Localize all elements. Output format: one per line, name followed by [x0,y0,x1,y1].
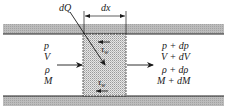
outlet-density: ρ + dρ [161,64,189,75]
inlet-properties: p V ρ M [43,40,53,86]
tau-sub-bottom: w [101,82,105,88]
inlet-mach: M [43,75,53,86]
duct-control-volume-diagram: dx dQ τw τw p V ρ M p + dp V + dV ρ + dρ… [0,0,227,111]
inlet-density: ρ [44,64,50,75]
outlet-mach: M + dM [156,75,191,86]
bottom-wall [3,96,224,106]
outlet-velocity: V + dV [161,51,192,62]
outlet-properties: p + dp V + dV ρ + dρ M + dM [156,40,192,86]
top-wall [3,24,224,34]
inlet-pressure: p [43,40,49,51]
dx-label: dx [101,2,111,13]
inlet-velocity: V [44,51,52,62]
tau-sub-top: w [104,49,108,55]
dq-label: dQ [59,2,72,13]
outlet-pressure: p + dp [161,40,189,51]
